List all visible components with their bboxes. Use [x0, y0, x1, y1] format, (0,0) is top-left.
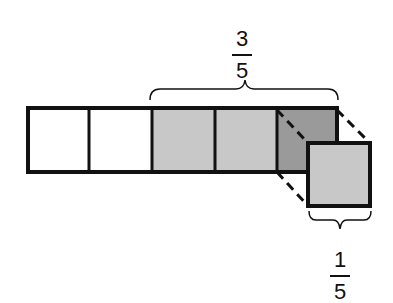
removed-part — [308, 143, 370, 206]
top-brace — [150, 80, 338, 100]
fraction-bar — [330, 275, 350, 277]
bottom-numerator: 1 — [334, 247, 346, 272]
bottom-fraction-label: 1 5 — [325, 249, 355, 303]
fraction-bar — [232, 54, 252, 56]
cell-2 — [89, 108, 152, 172]
top-numerator: 3 — [236, 26, 248, 51]
cell-1 — [28, 108, 89, 172]
bottom-denominator: 5 — [334, 279, 346, 303]
cell-3-shaded — [152, 108, 215, 172]
top-fraction-label: 3 5 — [227, 28, 257, 82]
top-denominator: 5 — [236, 58, 248, 83]
bottom-brace — [309, 211, 371, 229]
cell-4-shaded — [215, 108, 277, 172]
